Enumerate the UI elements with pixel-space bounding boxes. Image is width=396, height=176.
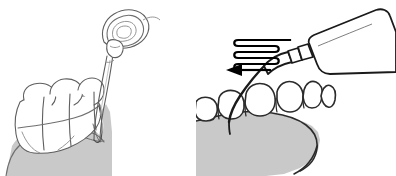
right-gingiva [196, 112, 320, 176]
dental-scaler-diagram: Ultrasonic scaler tip insertion and swee… [0, 0, 396, 176]
figure-root: Ultrasonic scaler tip insertion and swee… [0, 0, 396, 176]
